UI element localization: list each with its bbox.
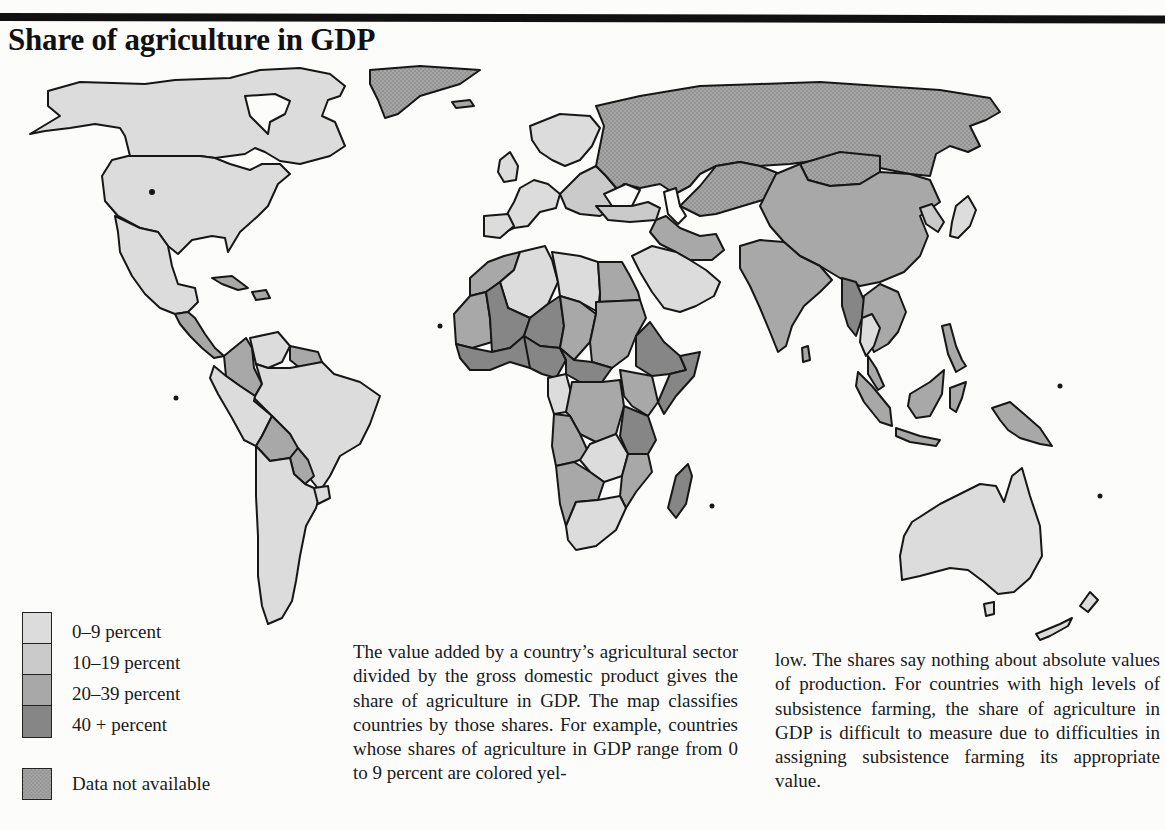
legend-label-40-plus: 40 + percent: [72, 709, 272, 740]
legend-labels: 0–9 percent 10–19 percent 20–39 percent …: [72, 616, 272, 740]
region-sri-lanka: [802, 346, 810, 362]
region-tasmania: [984, 602, 994, 616]
region-borneo: [908, 370, 944, 418]
legend-swatch-40-plus: [23, 706, 51, 737]
island-dot: [175, 397, 178, 400]
region-canada-alaska: [30, 68, 345, 164]
island-dot: [439, 325, 442, 328]
legend-label-20-39: 20–39 percent: [72, 678, 272, 709]
body-text-column-1: The value added by a country’s agricul­t…: [353, 640, 738, 786]
region-mozambique: [620, 454, 652, 508]
body-text-column-2: low. The shares say nothing about abso­l…: [775, 648, 1160, 794]
region-venezuela: [250, 332, 290, 368]
island-dot: [150, 190, 154, 194]
region-south-africa: [566, 496, 626, 550]
legend-label-10-19: 10–19 percent: [72, 647, 272, 678]
region-ethiopia: [636, 322, 686, 376]
region-java: [896, 428, 940, 446]
region-caribbean: [212, 276, 248, 290]
region-new-zealand-north: [1080, 592, 1098, 612]
region-uk: [498, 152, 518, 182]
legend-label-na: Data not available: [72, 768, 210, 800]
legend-swatch-10-19: [23, 644, 51, 675]
legend-label-0-9: 0–9 percent: [72, 616, 272, 647]
region-central-america: [175, 312, 224, 358]
region-sulawesi: [950, 382, 966, 412]
region-new-guinea: [992, 402, 1052, 446]
map-title: Share of agriculture in GDP: [8, 22, 375, 58]
island-dot: [1059, 385, 1062, 388]
region-turkey: [596, 202, 660, 222]
region-uruguay: [314, 486, 330, 504]
world-map: [0, 56, 1165, 646]
legend-swatch-stack: [22, 612, 52, 738]
legend-swatch-20-39: [23, 675, 51, 706]
island-dot: [711, 505, 714, 508]
region-japan: [950, 196, 976, 238]
legend-swatch-0-9: [23, 613, 51, 644]
island-dot: [1099, 495, 1102, 498]
region-hispaniola: [252, 290, 270, 300]
region-philippines: [942, 324, 966, 372]
region-madagascar: [668, 464, 692, 518]
legend-swatch-na: [22, 768, 52, 800]
region-greenland: [370, 66, 480, 118]
region-iberia: [484, 214, 514, 238]
region-scandinavia: [530, 114, 600, 166]
region-iceland: [452, 100, 474, 108]
region-egypt: [598, 262, 640, 302]
region-new-zealand: [1036, 618, 1072, 640]
region-australia: [900, 468, 1042, 594]
